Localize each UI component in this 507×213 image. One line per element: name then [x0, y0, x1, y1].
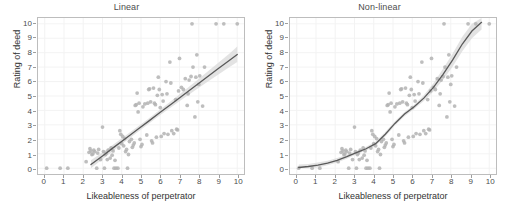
- y-tick-label: 1: [10, 150, 32, 159]
- y-tick-label: 4: [262, 106, 284, 115]
- y-tick-mark: [33, 37, 36, 38]
- y-tick-mark: [33, 140, 36, 141]
- x-tick-mark: [451, 175, 452, 178]
- y-tick-label: 6: [10, 77, 32, 86]
- y-tick-label: 3: [262, 121, 284, 130]
- x-tick-mark: [160, 175, 161, 178]
- x-tick-label: 3: [352, 177, 356, 186]
- y-tick-mark: [285, 155, 288, 156]
- x-tick-label: 9: [469, 177, 473, 186]
- y-tick-label: 0: [262, 165, 284, 174]
- y-tick-label: 9: [10, 33, 32, 42]
- x-tick-mark: [296, 175, 297, 178]
- y-tick-label: 3: [10, 121, 32, 130]
- x-tick-label: 4: [371, 177, 375, 186]
- x-tick-labels-linear: 012345678910: [37, 177, 245, 189]
- y-tick-mark: [33, 23, 36, 24]
- y-tick-mark: [33, 155, 36, 156]
- x-tick-label: 8: [197, 177, 201, 186]
- x-tick-label: 9: [217, 177, 221, 186]
- x-tick-label: 10: [486, 177, 495, 186]
- x-tick-mark: [490, 175, 491, 178]
- y-tick-mark: [33, 111, 36, 112]
- facet-panel-nonlinear: Non-linear Rating of deed 012345678910 0…: [253, 0, 506, 213]
- x-tick-label: 8: [449, 177, 453, 186]
- x-tick-label: 7: [430, 177, 434, 186]
- x-axis-label-nonlinear: Likeableness of perpetrator: [289, 191, 497, 201]
- plot-panel-linear: [37, 17, 245, 175]
- x-tick-mark: [44, 175, 45, 178]
- y-tick-label: 9: [262, 33, 284, 42]
- plot-svg-nonlinear: [290, 18, 496, 174]
- y-tick-label: 6: [262, 77, 284, 86]
- y-tick-label: 1: [262, 150, 284, 159]
- x-tick-label: 6: [158, 177, 162, 186]
- y-tick-mark: [285, 125, 288, 126]
- y-tick-label: 7: [10, 62, 32, 71]
- facet-panel-linear: Linear Rating of deed 012345678910 01234…: [0, 0, 253, 213]
- y-tick-label: 10: [10, 18, 32, 27]
- x-tick-mark: [354, 175, 355, 178]
- x-tick-mark: [412, 175, 413, 178]
- y-tick-labels-nonlinear: 012345678910: [260, 17, 284, 175]
- x-tick-mark: [374, 175, 375, 178]
- x-tick-mark: [83, 175, 84, 178]
- x-tick-label: 1: [61, 177, 65, 186]
- y-tick-mark: [285, 169, 288, 170]
- x-tick-mark: [335, 175, 336, 178]
- y-tick-label: 4: [10, 106, 32, 115]
- y-tick-mark: [285, 140, 288, 141]
- y-tick-mark: [285, 37, 288, 38]
- plot-svg-linear: [38, 18, 244, 174]
- x-tick-mark: [219, 175, 220, 178]
- x-tick-label: 2: [332, 177, 336, 186]
- y-tick-mark: [285, 111, 288, 112]
- y-tick-label: 2: [10, 135, 32, 144]
- figure-root: Linear Rating of deed 012345678910 01234…: [0, 0, 507, 213]
- x-tick-mark: [315, 175, 316, 178]
- x-tick-label: 4: [119, 177, 123, 186]
- y-tick-mark: [285, 23, 288, 24]
- x-tick-mark: [199, 175, 200, 178]
- x-tick-label: 6: [410, 177, 414, 186]
- x-tick-mark: [432, 175, 433, 178]
- y-tick-label: 0: [10, 165, 32, 174]
- x-tick-label: 3: [100, 177, 104, 186]
- facet-title-linear: Linear: [0, 2, 253, 12]
- x-tick-label: 0: [294, 177, 298, 186]
- y-tick-label: 5: [10, 92, 32, 101]
- x-tick-mark: [180, 175, 181, 178]
- x-tick-label: 0: [42, 177, 46, 186]
- x-tick-label: 2: [80, 177, 84, 186]
- y-tick-mark: [285, 81, 288, 82]
- x-tick-mark: [122, 175, 123, 178]
- y-tick-mark: [285, 67, 288, 68]
- y-tick-label: 7: [262, 62, 284, 71]
- y-tick-label: 8: [10, 48, 32, 57]
- facet-title-nonlinear: Non-linear: [253, 2, 506, 12]
- x-tick-label: 5: [139, 177, 143, 186]
- x-tick-mark: [141, 175, 142, 178]
- plot-panel-nonlinear: [289, 17, 497, 175]
- y-tick-label: 2: [262, 135, 284, 144]
- y-tick-mark: [33, 52, 36, 53]
- y-tick-label: 5: [262, 92, 284, 101]
- x-tick-mark: [63, 175, 64, 178]
- y-tick-mark: [33, 125, 36, 126]
- x-tick-label: 1: [313, 177, 317, 186]
- x-tick-mark: [102, 175, 103, 178]
- y-tick-mark: [285, 96, 288, 97]
- x-tick-mark: [471, 175, 472, 178]
- y-tick-label: 10: [262, 18, 284, 27]
- y-tick-mark: [285, 52, 288, 53]
- x-tick-label: 7: [178, 177, 182, 186]
- y-tick-mark: [33, 81, 36, 82]
- y-tick-mark: [33, 169, 36, 170]
- x-tick-labels-nonlinear: 012345678910: [289, 177, 497, 189]
- y-tick-mark: [33, 96, 36, 97]
- x-tick-label: 5: [391, 177, 395, 186]
- y-tick-mark: [33, 67, 36, 68]
- x-tick-mark: [393, 175, 394, 178]
- y-tick-label: 8: [262, 48, 284, 57]
- y-tick-labels-linear: 012345678910: [8, 17, 32, 175]
